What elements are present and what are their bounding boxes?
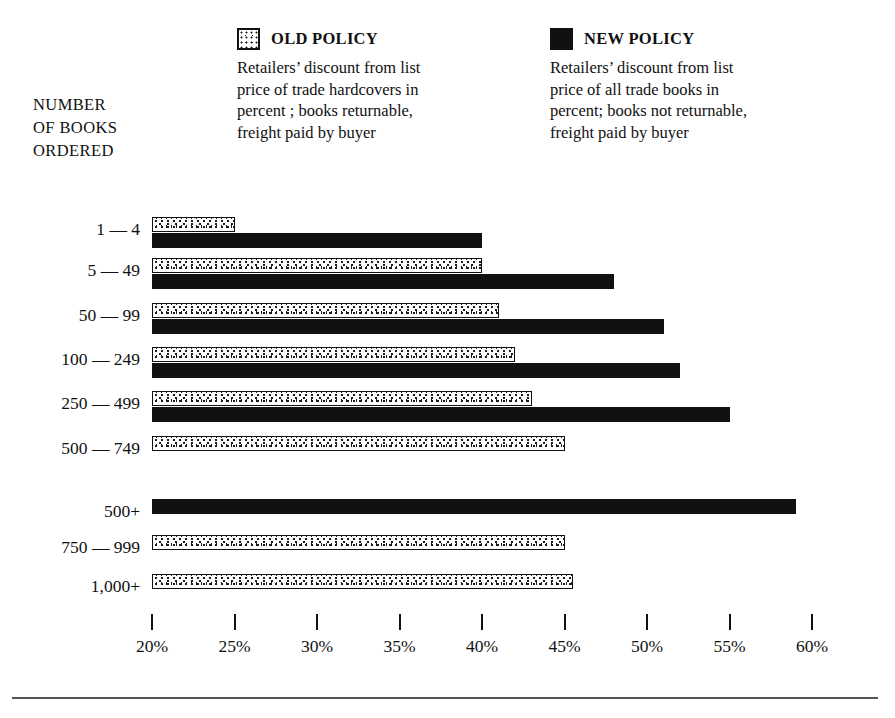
row-label-text: 500+ — [12, 503, 140, 520]
plot-area: 1 — 45 — 4950 — 99100 — 249250 — 499500 … — [0, 0, 895, 718]
row-label-text: 1 — 4 — [12, 221, 140, 238]
bar-old-policy-5 — [152, 391, 532, 406]
x-axis-tick-label-40%: 40% — [452, 636, 512, 657]
x-axis-tick-60% — [811, 614, 813, 630]
x-axis-tick-30% — [316, 614, 318, 630]
x-axis-tick-label-35%: 35% — [370, 636, 430, 657]
row-label-text: 250 — 499 — [12, 395, 140, 412]
row-label-text: 5 — 49 — [12, 262, 140, 279]
bar-old-policy-9 — [152, 574, 573, 589]
x-axis-tick-20% — [151, 614, 153, 630]
x-axis-tick-label-55%: 55% — [700, 636, 760, 657]
row-label-text: 50 — 99 — [12, 307, 140, 324]
x-axis-tick-label-20%: 20% — [122, 636, 182, 657]
bar-old-policy-1 — [152, 217, 235, 232]
bar-old-policy-2 — [152, 258, 482, 273]
x-axis-tick-45% — [564, 614, 566, 630]
x-axis-tick-label-30%: 30% — [287, 636, 347, 657]
row-label-text: 750 — 999 — [12, 539, 140, 556]
bar-old-policy-3 — [152, 303, 499, 318]
bar-new-policy-3 — [152, 319, 664, 334]
bar-old-policy-6 — [152, 436, 565, 451]
bar-old-policy-8 — [152, 535, 565, 550]
x-axis-tick-25% — [234, 614, 236, 630]
row-label-text: 500 — 749 — [12, 440, 140, 457]
bar-new-policy-1 — [152, 233, 482, 248]
x-axis-tick-label-25%: 25% — [205, 636, 265, 657]
x-axis-tick-label-45%: 45% — [535, 636, 595, 657]
row-label-text: 100 — 249 — [12, 351, 140, 368]
x-axis-tick-label-50%: 50% — [617, 636, 677, 657]
x-axis-tick-40% — [481, 614, 483, 630]
bar-new-policy-2 — [152, 274, 614, 289]
bar-new-policy-4 — [152, 363, 680, 378]
x-axis-tick-55% — [729, 614, 731, 630]
bar-chart-figure: OLD POLICY Retailers’ discount from list… — [0, 0, 895, 718]
bar-new-policy-7 — [152, 499, 796, 514]
bottom-rule-divider — [12, 697, 878, 699]
x-axis-tick-50% — [646, 614, 648, 630]
bar-new-policy-5 — [152, 407, 730, 422]
x-axis-tick-label-60%: 60% — [782, 636, 842, 657]
x-axis-tick-35% — [399, 614, 401, 630]
row-label-text: 1,000+ — [12, 578, 140, 595]
bar-old-policy-4 — [152, 347, 515, 362]
